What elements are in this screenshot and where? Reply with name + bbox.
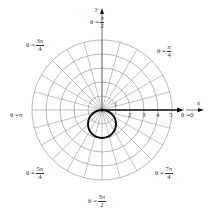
y-axis-label: y xyxy=(95,6,98,13)
label-theta-7pi-over-4: θ = 7π4 xyxy=(155,166,173,180)
label-theta-pi: θ = π xyxy=(10,112,23,119)
tick-3: 3 xyxy=(142,112,146,119)
label-theta-5pi-over-4: θ = 5π4 xyxy=(26,166,44,180)
label-theta-3pi-over-4: θ = 3π4 xyxy=(26,38,44,52)
tick-1: 1 xyxy=(114,101,118,108)
x-axis-label: x xyxy=(197,100,200,107)
tick-5: 5 xyxy=(169,112,173,119)
tick-4: 4 xyxy=(156,112,160,119)
label-theta-pi-over-4: θ = π4 xyxy=(157,44,171,58)
pole-point xyxy=(100,108,103,111)
label-theta-pi-over-2: θ = π2 xyxy=(90,15,104,29)
tick-2: 2 xyxy=(128,112,132,119)
label-theta-3pi-over-2: θ = 3π2 xyxy=(88,194,106,208)
x-axis-arrow-icon xyxy=(198,108,204,112)
label-theta-0: θ = 0 xyxy=(181,112,194,119)
polar-grid xyxy=(0,0,208,214)
